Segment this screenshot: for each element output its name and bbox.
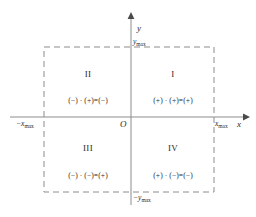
quadrant-label-i: I	[171, 70, 174, 79]
y-min-tick-sub: max	[141, 197, 150, 203]
y-max-tick-sub: max	[136, 41, 145, 47]
quadrant-sign-diagram: y x O ymax −ymax xmax −xmax I (+) · (+)=…	[0, 0, 256, 217]
quadrant-expression-iv: (+) · (−)=(−)	[153, 172, 192, 180]
x-min-tick-label: −xmax	[16, 120, 34, 128]
x-max-tick-sub: max	[218, 123, 227, 129]
diagram-canvas	[0, 0, 256, 217]
x-axis-label: x	[237, 120, 241, 129]
x-axis-arrow-icon	[243, 114, 250, 121]
quadrant-expression-ii: (−) · (+)=(−)	[68, 97, 107, 105]
y-axis-label: y	[137, 24, 141, 33]
quadrant-label-ii: II	[85, 70, 92, 79]
y-axis-arrow-icon	[128, 12, 135, 19]
y-max-tick-label: ymax	[133, 38, 146, 46]
quadrant-label-iv: IV	[168, 144, 178, 153]
quadrant-expression-i: (+) · (+)=(+)	[153, 97, 192, 105]
x-max-tick-label: xmax	[215, 120, 228, 128]
y-min-tick-label: −ymax	[133, 194, 151, 202]
quadrant-label-iii: III	[83, 144, 93, 153]
boundary-rectangle	[44, 47, 214, 192]
quadrant-expression-iii: (−) · (−)=(+)	[68, 172, 107, 180]
x-min-tick-sub: max	[24, 123, 33, 129]
origin-label: O	[120, 120, 127, 129]
